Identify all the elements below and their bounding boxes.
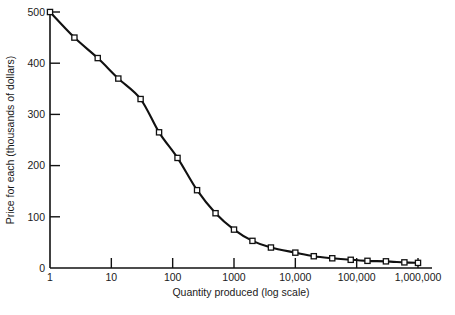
- x-tick-label: 100: [164, 271, 182, 283]
- x-axis-ticks: [111, 258, 418, 268]
- x-tick-label: 10,000: [279, 271, 311, 283]
- data-point-marker: [213, 211, 218, 216]
- x-tick-label: 1: [47, 271, 53, 283]
- y-axis-tick-labels: 0100200300400500: [27, 6, 45, 274]
- data-point-marker: [194, 188, 199, 193]
- x-tick-label: 1000: [222, 271, 246, 283]
- data-point-marker: [47, 9, 52, 14]
- chart-container: 0100200300400500 110100100010,000100,000…: [0, 0, 455, 315]
- y-tick-label: 300: [27, 108, 45, 120]
- y-tick-label: 100: [27, 211, 45, 223]
- y-axis-ticks: [50, 12, 60, 217]
- x-tick-label: 100,000: [338, 271, 376, 283]
- data-point-marker: [311, 254, 316, 259]
- data-point-marker: [383, 259, 388, 264]
- data-point-marker: [348, 257, 353, 262]
- y-tick-label: 500: [27, 6, 45, 18]
- x-axis-title: Quantity produced (log scale): [172, 286, 309, 298]
- data-point-marker: [330, 256, 335, 261]
- y-axis-title: Price for each (thousands of dollars): [4, 56, 16, 225]
- price-quantity-line-chart: 0100200300400500 110100100010,000100,000…: [0, 0, 455, 315]
- data-series-line: [50, 12, 418, 263]
- data-point-marker: [116, 76, 121, 81]
- y-tick-label: 200: [27, 159, 45, 171]
- data-point-marker: [231, 227, 236, 232]
- y-tick-label: 0: [39, 262, 45, 274]
- y-tick-label: 400: [27, 57, 45, 69]
- data-point-marker: [293, 250, 298, 255]
- x-tick-label: 10: [105, 271, 117, 283]
- x-tick-label: 1,000,000: [395, 271, 442, 283]
- data-point-marker: [250, 238, 255, 243]
- data-point-marker: [72, 35, 77, 40]
- data-point-marker: [175, 155, 180, 160]
- data-point-marker: [365, 258, 370, 263]
- data-point-marker: [138, 96, 143, 101]
- data-point-marker: [156, 130, 161, 135]
- axes-group: [50, 12, 432, 268]
- data-point-marker: [415, 260, 420, 265]
- data-point-marker: [95, 55, 100, 60]
- data-point-markers: [47, 9, 420, 265]
- data-point-marker: [402, 260, 407, 265]
- data-point-marker: [268, 245, 273, 250]
- x-axis-tick-labels: 110100100010,000100,0001,000,000: [47, 271, 441, 283]
